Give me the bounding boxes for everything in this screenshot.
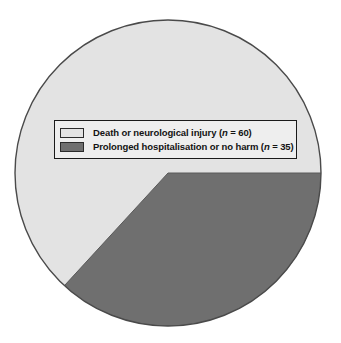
legend-item-label: Death or neurological injury (n = 60) xyxy=(93,127,252,138)
legend-swatch-light-icon xyxy=(60,128,84,138)
pie-chart-svg xyxy=(0,0,341,343)
legend-label-suffix: = 60) xyxy=(228,127,252,138)
legend-label-prefix: Death or neurological injury ( xyxy=(93,127,222,138)
chart-legend: Death or neurological injury (n = 60) Pr… xyxy=(54,120,297,159)
legend-item-death-or-neurological-injury: Death or neurological injury (n = 60) xyxy=(60,126,290,139)
legend-item-prolonged-hospitalisation-or-no-harm: Prolonged hospitalisation or no harm (n … xyxy=(60,140,290,153)
legend-item-label: Prolonged hospitalisation or no harm (n … xyxy=(93,141,294,152)
pie-chart-figure: Death or neurological injury (n = 60) Pr… xyxy=(0,0,341,343)
legend-label-suffix: = 35) xyxy=(270,141,294,152)
legend-swatch-dark-icon xyxy=(60,142,84,152)
legend-label-prefix: Prolonged hospitalisation or no harm ( xyxy=(93,141,264,152)
